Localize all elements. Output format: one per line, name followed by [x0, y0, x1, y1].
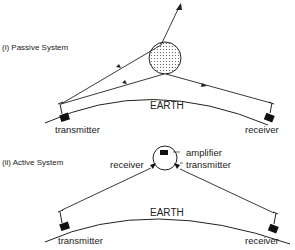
receiver-label-passive: receiver	[245, 125, 279, 135]
passive-satellite-sphere	[149, 42, 181, 74]
reflected-ray-receiver	[166, 74, 271, 103]
satellite-transmitter-antenna	[174, 163, 180, 169]
receiver-label-active: receiver	[245, 236, 279, 246]
transmitter-label-active: transmitter	[58, 236, 103, 246]
amplifier-label: amplifier	[186, 148, 222, 158]
arrow-head-space	[176, 3, 182, 10]
satellite-receiver-label: receiver	[110, 160, 144, 170]
transmitter-label-passive: transmitter	[55, 125, 100, 135]
signal-ray-up	[61, 45, 161, 104]
active-satellite	[150, 146, 183, 170]
transmitter-station-passive	[58, 102, 70, 122]
reflected-ray-space	[161, 5, 180, 45]
ray-arrow	[116, 64, 121, 68]
passive-system-title: (i) Passive System	[2, 43, 68, 53]
downlink-ray	[180, 169, 274, 213]
earth-label-active: EARTH	[150, 208, 184, 218]
amplifier-box	[160, 150, 168, 155]
active-system-title: (ii) Active System	[2, 158, 63, 168]
receiver-station-active	[268, 212, 279, 234]
uplink-ray	[62, 168, 151, 210]
transmitter-station-active	[58, 210, 70, 231]
satellite-transmitter-label: transmitter	[186, 160, 231, 170]
receiver-station-passive	[264, 102, 275, 123]
ray-arrow	[122, 80, 127, 84]
earth-label-passive: EARTH	[150, 101, 184, 111]
